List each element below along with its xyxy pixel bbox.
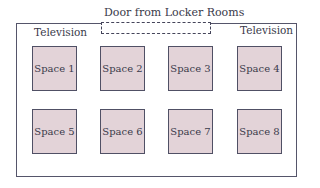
space-2: Space 2	[100, 46, 145, 91]
space-7: Space 7	[168, 109, 213, 154]
space-3: Space 3	[168, 46, 213, 91]
space-1: Space 1	[32, 46, 77, 91]
space-4: Space 4	[237, 46, 282, 91]
television-left: Television	[34, 26, 87, 38]
space-8: Space 8	[237, 109, 282, 154]
space-5: Space 5	[32, 109, 77, 154]
door-label: Door from Locker Rooms	[104, 6, 244, 19]
space-6: Space 6	[100, 109, 145, 154]
television-right: Television	[240, 24, 293, 36]
door-from-locker-rooms	[101, 22, 211, 34]
